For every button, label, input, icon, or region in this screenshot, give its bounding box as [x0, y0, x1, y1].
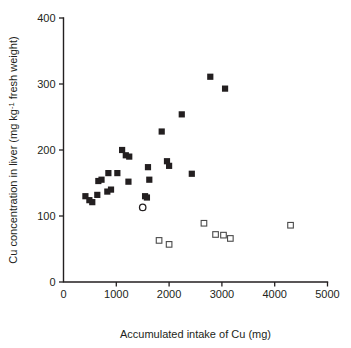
- data-point-open-square: [288, 222, 294, 228]
- y-tick-label: 200: [37, 144, 55, 156]
- data-point-filled-square: [189, 171, 195, 177]
- data-point-open-square: [213, 232, 219, 238]
- data-point-filled-square: [119, 147, 125, 153]
- data-point-filled-square: [144, 194, 150, 200]
- data-point-filled-square: [125, 179, 131, 185]
- y-tick-label: 300: [37, 78, 55, 90]
- axis-ticks: [59, 18, 328, 287]
- data-point-filled-square: [108, 187, 114, 193]
- x-tick-label: 0: [60, 288, 66, 300]
- y-tick-label: 100: [37, 210, 55, 222]
- axis-spines: [64, 18, 328, 282]
- data-point-filled-square: [89, 199, 95, 205]
- y-tick-label: 0: [49, 276, 55, 288]
- data-point-open-square: [166, 242, 172, 248]
- x-tick-label: 1000: [104, 288, 128, 300]
- x-tick-label: 5000: [315, 288, 339, 300]
- x-axis-title: Accumulated intake of Cu (mg): [120, 328, 271, 340]
- data-point-open-square: [221, 232, 227, 238]
- data-point-filled-square: [98, 177, 104, 183]
- data-point-filled-square: [207, 74, 213, 80]
- data-point-open-square: [228, 236, 234, 242]
- data-point-open-circle: [140, 204, 146, 210]
- data-point-filled-square: [105, 170, 111, 176]
- plot-canvas: 0100200300400010002000300040005000 Accum…: [0, 0, 351, 348]
- data-point-filled-square: [222, 86, 228, 92]
- data-point-open-square: [201, 220, 207, 226]
- data-point-open-square: [156, 238, 162, 244]
- data-points: [82, 74, 293, 248]
- y-axis-title: Cu concentration in liver (mg kg-1 fresh…: [7, 36, 20, 263]
- x-tick-label: 4000: [262, 288, 286, 300]
- data-point-filled-square: [94, 192, 100, 198]
- data-point-filled-square: [114, 170, 120, 176]
- y-tick-label: 400: [37, 12, 55, 24]
- data-point-filled-square: [159, 128, 165, 134]
- data-point-filled-square: [145, 164, 151, 170]
- axis-tick-labels: 0100200300400010002000300040005000: [37, 12, 340, 300]
- x-tick-label: 3000: [210, 288, 234, 300]
- data-point-filled-square: [126, 154, 132, 160]
- axes: [64, 18, 328, 282]
- x-tick-label: 2000: [157, 288, 181, 300]
- data-point-filled-square: [146, 177, 152, 183]
- data-point-filled-square: [166, 163, 172, 169]
- data-point-filled-square: [179, 111, 185, 117]
- scatter-plot-figure: 0100200300400010002000300040005000 Accum…: [0, 0, 351, 348]
